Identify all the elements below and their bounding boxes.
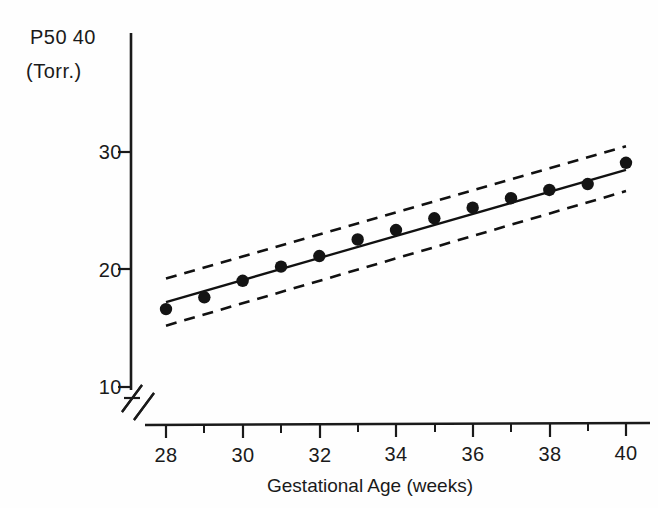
data-point [428,212,440,224]
y-tick-label-40: 40 [73,26,96,48]
data-point [466,201,478,213]
x-tick-label-28: 28 [154,444,177,466]
plot-data-layer [160,146,632,325]
data-point [390,224,402,236]
x-tick-label-30: 30 [231,444,254,466]
x-tick-label-32: 32 [308,444,331,466]
data-point [236,275,248,287]
x-axis-title: Gestational Age (weeks) [267,475,473,496]
data-point [275,260,287,272]
x-tick-label-36: 36 [461,443,484,465]
chart-canvas: P50 (Torr.) 40 30 20 10 [0,0,658,508]
axis-break-symbol [122,385,154,420]
x-tick-label-34: 34 [384,443,407,465]
x-axis-line [145,423,650,425]
data-point [505,192,517,204]
data-point [313,250,325,262]
x-tick-label-40: 40 [614,442,637,464]
data-point [160,303,172,315]
chart-figure: P50 (Torr.) 40 30 20 10 [0,0,658,508]
y-axis-title-line1: P50 [30,26,67,48]
y-axis-title-line2: (Torr.) [26,60,82,82]
data-point [543,184,555,196]
data-point [198,291,210,303]
x-tick-label-38: 38 [538,443,561,465]
data-point [581,178,593,190]
data-point [620,157,632,169]
lower-confidence-band [166,191,626,326]
data-point [351,233,363,245]
